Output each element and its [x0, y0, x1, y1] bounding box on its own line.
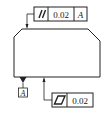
datum-label: A — [20, 89, 26, 98]
parallelism-leader — [26, 14, 35, 29]
flatness-leader — [43, 77, 53, 100]
part-outline — [14, 29, 100, 77]
flatness-feature-control-frame: 0.02 — [52, 93, 93, 107]
datum-triangle-icon — [20, 77, 27, 83]
gdt-drawing: 0.02 A A 0.02 — [0, 0, 105, 121]
parallelism-datum-ref: A — [77, 10, 84, 20]
parallelism-feature-control-frame: 0.02 A — [34, 7, 87, 21]
datum-feature-symbol: A — [19, 77, 28, 98]
flatness-tolerance: 0.02 — [72, 96, 88, 106]
parallelism-tolerance: 0.02 — [53, 10, 69, 20]
